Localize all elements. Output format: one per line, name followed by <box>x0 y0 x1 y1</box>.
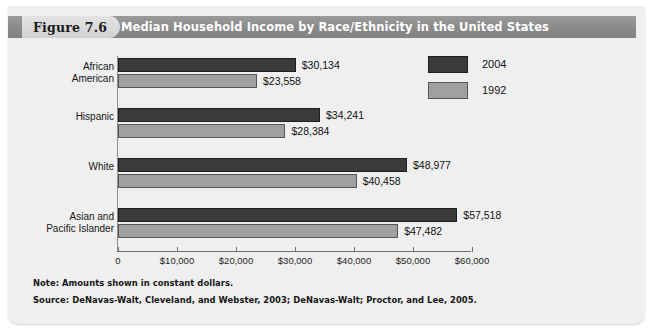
x-axis-tick <box>354 247 355 252</box>
x-axis-line <box>117 251 471 252</box>
bar-value-label: $57,518 <box>463 208 501 222</box>
x-axis-tick <box>472 247 473 252</box>
chart-plot-area: 0$10,000$20,000$30,000$40,000$50,000$60,… <box>8 44 645 269</box>
bar-value-label: $23,558 <box>263 74 301 88</box>
bar-2004 <box>118 58 296 72</box>
x-axis-tick <box>413 247 414 252</box>
bar-value-label: $30,134 <box>302 58 340 72</box>
legend-swatch-1992 <box>428 82 468 99</box>
category-label: Asian andPacific Islander <box>0 211 114 234</box>
category-label: White <box>0 161 114 173</box>
figure-number-label: Figure 7.6 <box>33 20 107 35</box>
bar-value-label: $48,977 <box>413 158 451 172</box>
figure-notes: Note: Amounts shown in constant dollars.… <box>33 278 633 312</box>
bar-1992 <box>118 224 398 238</box>
figure-panel: Figure 7.6 Median Household Income by Ra… <box>8 6 645 324</box>
x-axis-tick <box>177 247 178 252</box>
bar-value-label: $28,384 <box>291 124 329 138</box>
x-axis-tick-label: 0 <box>115 255 120 266</box>
x-axis-tick-label: $40,000 <box>337 255 371 266</box>
bar-value-label: $47,482 <box>404 224 442 238</box>
bar-1992 <box>118 74 257 88</box>
x-axis-tick <box>295 247 296 252</box>
bar-2004 <box>118 208 457 222</box>
figure-title: Median Household Income by Race/Ethnicit… <box>121 16 549 38</box>
bar-2004 <box>118 108 320 122</box>
source-text: Source: DeNavas-Walt, Cleveland, and Web… <box>33 295 633 305</box>
note-text: Note: Amounts shown in constant dollars. <box>33 278 633 288</box>
x-axis-tick-label: $50,000 <box>396 255 430 266</box>
x-axis-tick-label: $10,000 <box>160 255 194 266</box>
legend-label-2004: 2004 <box>482 56 506 73</box>
x-axis-tick <box>118 247 119 252</box>
bar-value-label: $34,241 <box>326 108 364 122</box>
bar-value-label: $40,458 <box>363 174 401 188</box>
bar-1992 <box>118 174 357 188</box>
bar-1992 <box>118 124 285 138</box>
legend-label-1992: 1992 <box>482 82 506 99</box>
category-label: Hispanic <box>0 111 114 123</box>
category-label: AfricanAmerican <box>0 61 114 84</box>
x-axis-tick-label: $30,000 <box>278 255 312 266</box>
bar-2004 <box>118 158 407 172</box>
x-axis-tick <box>236 247 237 252</box>
x-axis-tick-label: $20,000 <box>219 255 253 266</box>
figure-number-tab: Figure 7.6 <box>22 16 120 38</box>
legend-swatch-2004 <box>428 56 468 73</box>
x-axis-tick-label: $60,000 <box>455 255 489 266</box>
